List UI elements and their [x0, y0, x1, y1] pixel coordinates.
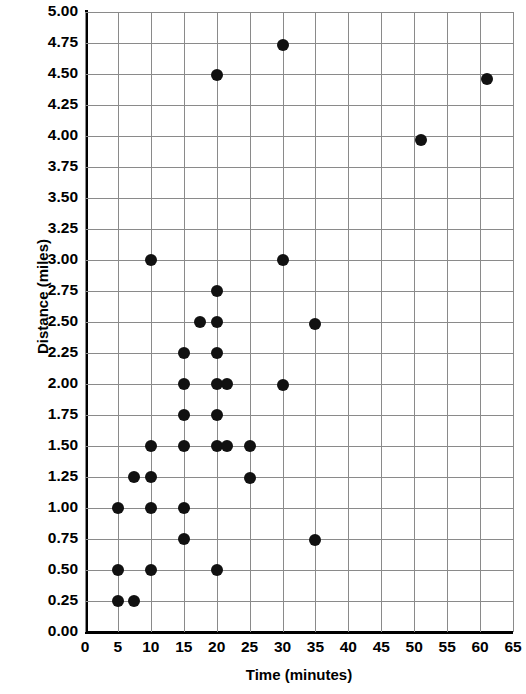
data-point [194, 316, 206, 328]
y-axis-tick-label: 2.75 [8, 281, 78, 299]
data-point [309, 534, 321, 546]
gridline-horizontal [85, 291, 513, 292]
data-point [221, 378, 233, 390]
data-point [277, 39, 289, 51]
gridline-horizontal [85, 539, 513, 540]
y-axis-tick-label: 4.75 [8, 33, 78, 51]
data-point [145, 471, 157, 483]
y-axis-tick-label: 1.25 [8, 467, 78, 485]
data-point [178, 533, 190, 545]
y-axis-tick-label: 2.25 [8, 343, 78, 361]
gridline-horizontal [85, 229, 513, 230]
data-point [178, 409, 190, 421]
y-axis-tick-label: 0.25 [8, 591, 78, 609]
y-axis-tick-label: 0.50 [8, 560, 78, 578]
gridline-horizontal [85, 136, 513, 137]
data-point [211, 316, 223, 328]
y-axis-tick-label: 2.50 [8, 312, 78, 330]
gridline-horizontal [85, 322, 513, 323]
gridline-horizontal [85, 74, 513, 75]
data-point [178, 502, 190, 514]
gridline-horizontal [85, 105, 513, 106]
data-point [145, 502, 157, 514]
data-point [244, 440, 256, 452]
gridline-horizontal [85, 353, 513, 354]
data-point [309, 318, 321, 330]
y-axis-tick-label: 3.75 [8, 157, 78, 175]
data-point [178, 347, 190, 359]
data-point [112, 502, 124, 514]
data-point [415, 134, 427, 146]
y-axis-tick-label: 1.50 [8, 436, 78, 454]
data-point [211, 69, 223, 81]
y-axis-tick-label: 1.00 [8, 498, 78, 516]
data-point [145, 440, 157, 452]
gridline-horizontal [85, 415, 513, 416]
data-point [244, 472, 256, 484]
y-axis-tick-label: 2.00 [8, 374, 78, 392]
gridline-horizontal [85, 12, 513, 13]
data-point [178, 440, 190, 452]
y-axis-tick-label: 0.75 [8, 529, 78, 547]
gridline-horizontal [85, 43, 513, 44]
data-point [145, 254, 157, 266]
plot-area [85, 12, 513, 632]
data-point [211, 285, 223, 297]
gridline-horizontal [85, 384, 513, 385]
data-point [221, 440, 233, 452]
data-point [211, 347, 223, 359]
data-point [128, 595, 140, 607]
y-axis-tick-label: 3.25 [8, 219, 78, 237]
y-axis-tick-label: 3.50 [8, 188, 78, 206]
data-point [178, 378, 190, 390]
data-point [211, 409, 223, 421]
data-point [112, 564, 124, 576]
data-point [112, 595, 124, 607]
data-point [145, 564, 157, 576]
y-axis-tick-label: 4.25 [8, 95, 78, 113]
x-axis-tick-label: 65 [493, 638, 526, 656]
gridline-horizontal [85, 601, 513, 602]
data-point [277, 254, 289, 266]
data-point [211, 564, 223, 576]
data-point [481, 73, 493, 85]
data-point [128, 471, 140, 483]
y-axis-tick-label: 1.75 [8, 405, 78, 423]
data-point [277, 379, 289, 391]
gridline-horizontal [85, 167, 513, 168]
y-axis-tick-label: 4.00 [8, 126, 78, 144]
gridline-vertical [513, 12, 514, 632]
y-axis-tick-label: 5.00 [8, 2, 78, 20]
x-axis-title: Time (minutes) [85, 666, 513, 683]
gridline-horizontal [85, 198, 513, 199]
y-axis-tick-label: 3.00 [8, 250, 78, 268]
y-axis-tick-label: 0.00 [8, 622, 78, 640]
y-axis-tick-label: 4.50 [8, 64, 78, 82]
